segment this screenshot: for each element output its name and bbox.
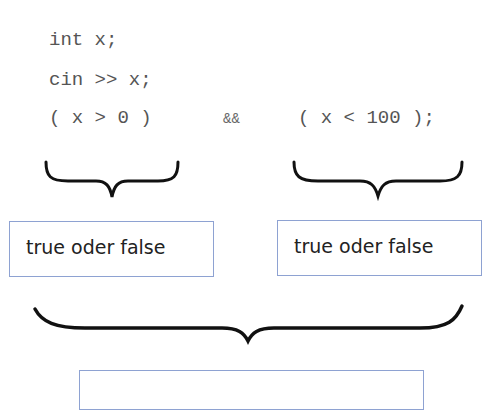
left-result-label: true oder false xyxy=(26,236,165,258)
bottom-brace-icon xyxy=(35,306,462,341)
left-brace-icon xyxy=(46,162,178,197)
right-brace-icon xyxy=(294,162,462,196)
right-result-label: true oder false xyxy=(294,235,433,257)
left-result-box: true oder false xyxy=(9,221,214,277)
combined-result-box xyxy=(79,370,424,410)
right-result-box: true oder false xyxy=(277,220,482,276)
